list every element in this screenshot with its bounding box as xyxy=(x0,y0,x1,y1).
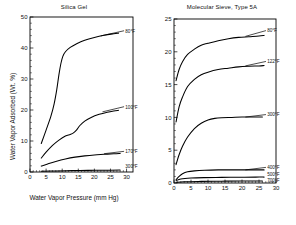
curve-500f xyxy=(176,177,264,181)
curve-label-170f: 170°F xyxy=(125,149,138,154)
x-tick-label: 15 xyxy=(75,174,82,180)
x-tick-label: 0 xyxy=(28,174,32,180)
curve-label-300f: 300°F xyxy=(267,112,280,117)
x-tick-label: 0 xyxy=(172,185,176,191)
curve-label-80f: 80°F xyxy=(125,29,135,34)
y-tick-label: 25 xyxy=(165,16,172,22)
curve-100f xyxy=(41,110,118,158)
curve-170f xyxy=(41,153,120,166)
y-axis-label-silica-gel: Water Vapor Adsorbed (Wt. %) xyxy=(9,73,16,160)
x-tick-label: 5 xyxy=(189,185,193,191)
x-tick-label: 5 xyxy=(44,174,48,180)
plot-area-molecular-sieve: 051015202505101520253080°F122°F300°F400°… xyxy=(148,0,296,225)
x-tick-label: 25 xyxy=(107,174,114,180)
x-tick-label: 15 xyxy=(222,185,229,191)
x-axis-label-silica-gel: Water Vapor Pressure (mm Hg) xyxy=(0,194,148,201)
figure-container: Silica Gel 0102030405005101520253080°F10… xyxy=(0,0,296,225)
curve-80f xyxy=(41,33,118,143)
chart-panel-silica-gel: Silica Gel 0102030405005101520253080°F10… xyxy=(0,0,148,225)
curve-label-300f: 300°F xyxy=(125,164,138,169)
curve-label-500f: 500°F xyxy=(267,172,280,177)
x-tick-label: 30 xyxy=(123,174,130,180)
x-tick-label: 20 xyxy=(91,174,98,180)
y-tick-label: 50 xyxy=(21,14,28,20)
y-tick-label: 20 xyxy=(21,107,28,113)
x-tick-label: 10 xyxy=(59,174,66,180)
y-tick-label: 10 xyxy=(21,138,28,144)
curve-700f xyxy=(176,181,262,182)
curve-300f xyxy=(176,117,262,165)
y-tick-label: 20 xyxy=(165,49,172,55)
curve-122f xyxy=(176,66,264,122)
curve-300f xyxy=(41,170,120,171)
x-tick-label: 10 xyxy=(205,185,212,191)
plot-area-silica-gel: 0102030405005101520253080°F100°F170°F300… xyxy=(0,0,148,225)
curve-80f xyxy=(176,35,264,80)
y-tick-label: 15 xyxy=(165,82,172,88)
y-tick-label: 10 xyxy=(165,115,172,121)
y-tick-label: 30 xyxy=(21,76,28,82)
y-tick-label: 40 xyxy=(21,45,28,51)
curve-label-80f: 80°F xyxy=(267,28,277,33)
curve-label-700f: 700°F xyxy=(267,178,280,183)
curve-label-122f: 122°F xyxy=(267,59,280,64)
chart-panel-molecular-sieve: Molecular Sieve, Type 5A 051015202505101… xyxy=(148,0,296,225)
curve-label-100f: 100°F xyxy=(125,105,138,110)
x-tick-label: 30 xyxy=(273,185,280,191)
x-tick-label: 20 xyxy=(239,185,246,191)
y-tick-label: 5 xyxy=(168,147,172,153)
curve-label-400f: 400°F xyxy=(267,165,280,170)
x-tick-label: 25 xyxy=(256,185,263,191)
